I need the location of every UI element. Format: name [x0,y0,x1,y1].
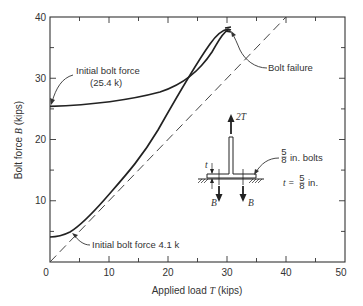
inset-b-label-left: B [211,198,217,208]
plot-frame [50,17,345,262]
arrowhead-failure [231,31,236,37]
y-tick-20: 20 [35,134,47,145]
x-tick-40: 40 [280,267,292,278]
inset-b-label-right: B [248,198,254,208]
y-tick-10: 10 [35,195,47,206]
annotation-arrow-upper [52,75,73,102]
inset-bolts-label: 5 8 in. bolts [281,146,323,165]
x-axis-ticks-top [80,17,316,23]
x-tick-10: 10 [103,267,115,278]
curve-initial-4-1k [50,29,231,237]
y-axis-title: Bolt force B (kips) [13,101,24,179]
annotation-lower: Initial bolt force 4.1 k [92,239,179,250]
x-tick-labels: 0 10 20 30 40 50 [43,267,347,278]
tee-stem [229,137,233,174]
y-tick-labels: 10 20 30 40 [35,12,47,206]
x-tick-20: 20 [162,267,174,278]
y-tick-40: 40 [35,12,47,23]
hatch-left [198,179,208,183]
x-tick-0: 0 [43,267,49,278]
svg-text:in. bolts: in. bolts [290,152,323,163]
annotation-arrow-failure [232,33,267,68]
x-tick-50: 50 [335,267,347,278]
x-tick-30: 30 [221,267,233,278]
x-axis-ticks-bottom [80,256,316,262]
annotation-upper-line2: (25.4 k) [90,77,122,88]
inset-thickness-eq: t = 5 8 in. [283,172,318,191]
inset-tee-diagram [198,137,264,189]
x-axis-title: Applied load T (kips) [152,285,243,296]
annotation-failure: Bolt failure [268,62,313,73]
svg-text:in.: in. [308,177,318,188]
reference-line-b-equals-t [50,17,286,262]
arrowhead-t-top [210,169,214,174]
tee-flange [207,174,256,178]
bolt-force-chart: 0 10 20 30 40 50 10 20 30 40 Applied loa… [0,0,363,306]
arrowhead-lower [72,233,78,238]
y-axis-ticks-right [339,48,345,232]
annotation-arrow-bolts [256,158,279,172]
arrowhead-b-right [240,194,247,202]
annotation-upper-line1: Initial bolt force [76,65,140,76]
svg-text:t =: t = [283,178,294,188]
y-axis-ticks-left [50,48,56,232]
inset-thickness-symbol: t [205,160,208,170]
svg-text:8: 8 [299,180,304,191]
svg-text:8: 8 [281,154,286,165]
arrowhead-upper [50,98,55,105]
inset-load-label: 2T [236,112,247,122]
y-tick-30: 30 [35,73,47,84]
arrowhead-2t [228,114,235,122]
hatch-right [249,179,262,183]
